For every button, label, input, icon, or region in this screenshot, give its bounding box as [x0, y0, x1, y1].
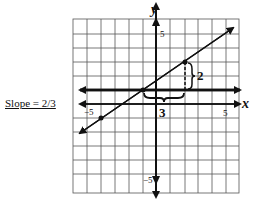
y-axis	[152, 4, 160, 197]
y-axis-label: y	[149, 2, 158, 17]
run-label: 3	[159, 105, 166, 120]
y-tick-negative: −5	[143, 175, 153, 185]
x-tick-positive: 5	[223, 108, 228, 118]
point-marker	[99, 116, 104, 121]
run-indicator	[143, 90, 185, 102]
coordinate-graph: y x 5 −5 −5 5 2 3	[0, 0, 257, 199]
rise-label: 2	[197, 68, 204, 83]
y-tick-positive: 5	[160, 29, 165, 39]
x-axis-label: x	[241, 96, 249, 111]
x-tick-negative: −5	[84, 107, 94, 117]
